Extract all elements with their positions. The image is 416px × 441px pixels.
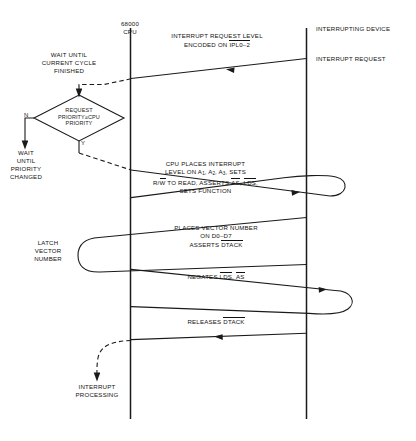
to-read-asserts: TO READ, ASSERTS — [166, 179, 232, 186]
decision-no-label: N — [24, 112, 29, 118]
device-lifeline-label: INTERRUPTING DEVICE — [316, 25, 390, 33]
decision-yes-label: Y — [81, 140, 85, 146]
cpu-step-wait-cycle: WAIT UNTIL CURRENT CYCLE FINISHED — [10, 51, 128, 75]
decision-line2-cpu: CPU — [88, 114, 100, 120]
dtack-signal-assert: DTACK — [221, 240, 242, 249]
cpu-step-latch-vector: LATCH VECTOR NUMBER — [20, 239, 76, 263]
interrupt-processing-line1: INTERRUPT — [79, 383, 116, 390]
latch-line3: NUMBER — [34, 255, 62, 262]
level-on-prefix: LEVEL ON A — [165, 168, 202, 175]
decision-line1: REQUEST — [65, 107, 92, 113]
as-signal-negate: AS — [236, 272, 245, 281]
interrupt-processing-line2: PROCESSING — [76, 391, 119, 398]
decision-text: REQUEST PRIORITY≥CPU PRIORITY — [39, 107, 119, 127]
latch-line2: VECTOR — [35, 247, 62, 254]
on-d0-d7-line: ON D0–D7 — [200, 232, 232, 239]
decision-line2-priority: PRIORITY — [58, 114, 85, 120]
as-signal: AS — [231, 178, 240, 187]
asserts-dtack-prefix: ASSERTS — [189, 241, 221, 248]
dtack-signal-release: DTACK — [223, 317, 244, 326]
message-interrupt-request-label: INTERRUPT REQUEST LEVEL ENCODED ON IPL0–… — [137, 32, 297, 49]
asserts-end: , — [256, 179, 258, 186]
message-negates-lds-as-label: NEGATES LDS, AS — [128, 272, 304, 281]
level-on-post: , SETS — [225, 168, 246, 175]
dashed-link-to-interrupt-processing — [97, 341, 131, 378]
message-interrupt-request-line — [131, 59, 307, 79]
cpu-label-line2: CPU — [123, 28, 137, 35]
cpu-label-line1: 68000 — [121, 20, 139, 27]
message-interrupt-request-arrowhead — [226, 67, 235, 73]
latch-line1: LATCH — [38, 239, 59, 246]
wait-priority-line4: CHANGED — [10, 173, 42, 180]
lds-signal: LDS — [244, 178, 257, 187]
ipl0-2-signal: IPL0–2 — [229, 40, 250, 49]
interrupt-acknowledge-diagram: 68000 CPU INTERRUPTING DEVICE WAIT UNTIL… — [0, 0, 416, 441]
interrupt-request-level-line1: INTERRUPT REQUEST LEVEL — [171, 32, 263, 39]
dashed-link-to-decision — [79, 79, 131, 93]
message-releases-dtack-label: RELEASES DTACK — [128, 317, 304, 326]
device-release-loop — [131, 291, 352, 314]
wait-priority-line3: PRIORITY — [11, 165, 42, 172]
wait-priority-line2: UNTIL — [17, 157, 36, 164]
wait-cycle-line2: CURRENT CYCLE — [42, 59, 97, 66]
places-vector-number-line1: PLACES VECTOR NUMBER — [174, 224, 258, 231]
message-cpu-places-interrupt-label: CPU PLACES INTERRUPT LEVEL ON A1, A2, A3… — [118, 160, 293, 196]
decision-no-branch — [25, 118, 34, 145]
wait-priority-line1: WAIT — [18, 149, 34, 156]
wait-cycle-line1: WAIT UNTIL — [51, 51, 87, 58]
lds-signal-negate: LDS — [220, 272, 233, 281]
cpu-step-wait-priority: WAIT UNTIL PRIORITY CHANGED — [0, 149, 52, 181]
encoded-on-prefix: ENCODED ON — [184, 41, 229, 48]
cpu-step-interrupt-processing: INTERRUPT PROCESSING — [57, 383, 137, 399]
message-releases-dtack-arrowhead — [214, 334, 223, 340]
wait-cycle-line3: FINISHED — [54, 67, 84, 74]
cpu-places-interrupt-line1: CPU PLACES INTERRUPT — [166, 160, 246, 167]
decision-line3: PRIORITY — [66, 120, 93, 126]
device-step-interrupt-request: INTERRUPT REQUEST — [316, 55, 386, 63]
level-on-mid2: , A — [215, 168, 223, 175]
message-places-vector-number-label: PLACES VECTOR NUMBER ON D0–D7 ASSERTS DT… — [128, 224, 304, 249]
negates-prefix: NEGATES — [187, 273, 219, 280]
sets-function-line: SETS FUNCTION — [180, 187, 232, 194]
releases-prefix: RELEASES — [187, 318, 223, 325]
level-on-mid1: , A — [205, 168, 213, 175]
